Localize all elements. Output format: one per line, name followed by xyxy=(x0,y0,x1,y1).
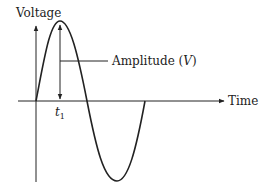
time-axis-label: Time xyxy=(228,94,258,108)
time-marker-label: t1 xyxy=(55,105,65,121)
voltage-axis-label: Voltage xyxy=(15,6,61,20)
sine-wave-diagram: Voltage Amplitude (V) Time t1 xyxy=(0,0,262,191)
amplitude-label: Amplitude (V) xyxy=(111,54,197,68)
